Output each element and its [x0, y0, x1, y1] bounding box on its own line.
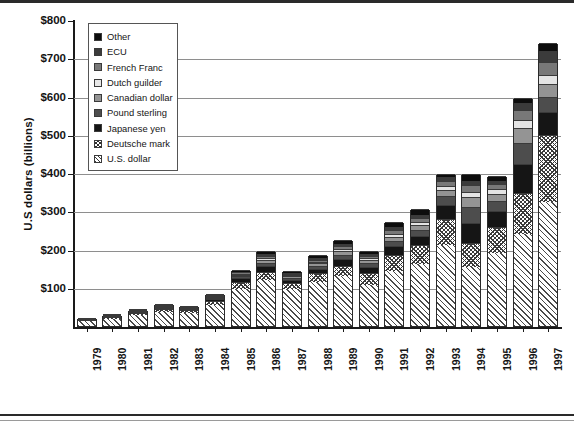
x-tick-1996 [523, 327, 524, 332]
page-bottom-rule-2 [0, 420, 574, 421]
x-axis-label-1988: 1988 [322, 348, 334, 371]
bar-segment-1997-japanese-yen [539, 112, 557, 135]
bar-segment-1989-pound-sterling [334, 255, 352, 259]
bar-segment-1991-deutsche-mark [385, 255, 403, 271]
legend-swatch-icon-pound-sterling [94, 109, 102, 117]
chart-legend: OtherECUFrench FrancDutch guilderCanadia… [88, 23, 178, 171]
bar-segment-1991-french-franc [385, 230, 403, 233]
bar-segment-1992-pound-sterling [411, 230, 429, 236]
bar-segment-1989-ecu [334, 244, 352, 246]
x-tick-1987 [292, 327, 293, 332]
bar-segment-1997-dutch-guilder [539, 75, 557, 83]
bar-segment-1996-japanese-yen [514, 164, 532, 193]
y-tick-500 [68, 136, 74, 137]
legend-item-ecu[interactable]: ECU [94, 44, 173, 59]
stacked-bar-1993 [436, 175, 456, 327]
y-tick-label-300: $300 [12, 205, 66, 217]
bar-segment-1997-ecu [539, 51, 557, 62]
legend-label: French Franc [107, 63, 163, 72]
y-tick-800 [68, 21, 74, 22]
x-axis-label-1982: 1982 [168, 348, 180, 371]
x-tick-1983 [189, 327, 190, 332]
bar-segment-1996-dutch-guilder [514, 120, 532, 128]
legend-label: Japanese yen [107, 124, 165, 133]
bar-segment-1994-canadian-dollar [462, 197, 480, 207]
y-tick-100 [68, 289, 74, 290]
legend-item-other[interactable]: Other [94, 29, 173, 44]
stacked-bar-1979 [77, 319, 97, 327]
bar-segment-1990-ecu [360, 254, 378, 256]
x-tick-1988 [318, 327, 319, 332]
legend-item-japanese-yen[interactable]: Japanese yen [94, 121, 173, 136]
stacked-bar-1991 [384, 223, 404, 327]
x-tick-1994 [471, 327, 472, 332]
bar-segment-1994-u-s-dollar [462, 267, 480, 326]
bar-segment-1987-french-franc [283, 274, 301, 275]
bar-segment-1988-japanese-yen [309, 269, 327, 274]
bar-segment-1992-dutch-guilder [411, 222, 429, 225]
x-tick-1997 [548, 327, 549, 332]
bar-segment-1979-u-s-dollar [78, 321, 96, 326]
legend-item-french-franc[interactable]: French Franc [94, 60, 173, 75]
y-tick-label-800: $800 [12, 14, 66, 26]
legend-label: Pound sterling [107, 108, 167, 117]
legend-swatch-icon-french-franc [94, 63, 102, 71]
bar-segment-1982-japanese-yen [155, 308, 173, 310]
bar-segment-1993-other [437, 174, 455, 177]
bar-segment-1992-canadian-dollar [411, 225, 429, 230]
y-tick-300 [68, 212, 74, 213]
x-axis-label-1979: 1979 [91, 348, 103, 371]
bar-segment-1995-other [488, 176, 506, 181]
bar-segment-1990-deutsche-mark [360, 273, 378, 284]
bar-segment-1995-ecu [488, 181, 506, 184]
bar-segment-1981-other [129, 309, 147, 310]
bar-segment-1990-french-franc [360, 256, 378, 258]
y-tick-label-600: $600 [12, 91, 66, 103]
bar-segment-1985-u-s-dollar [232, 289, 250, 326]
stacked-bar-1983 [179, 307, 199, 327]
legend-item-u-s-dollar[interactable]: U.S. dollar [94, 151, 173, 166]
legend-label: U.S. dollar [107, 154, 151, 163]
bar-segment-1987-u-s-dollar [283, 289, 301, 326]
x-axis-label-1986: 1986 [270, 348, 282, 371]
bar-segment-1979-canadian-dollar [78, 318, 96, 319]
legend-item-dutch-guilder[interactable]: Dutch guilder [94, 75, 173, 90]
y-tick-200 [68, 251, 74, 252]
legend-item-pound-sterling[interactable]: Pound sterling [94, 105, 173, 120]
x-axis-label-1993: 1993 [450, 348, 462, 371]
bar-segment-1997-french-franc [539, 62, 557, 75]
bar-segment-1987-canadian-dollar [283, 276, 301, 278]
bar-segment-1986-deutsche-mark [257, 272, 275, 280]
bar-segment-1986-ecu [257, 254, 275, 256]
bar-segment-1988-u-s-dollar [309, 282, 327, 326]
x-axis-label-1983: 1983 [193, 348, 205, 371]
bar-segment-1990-dutch-guilder [360, 258, 378, 260]
bar-segment-1984-u-s-dollar [206, 305, 224, 326]
x-axis-label-1997: 1997 [552, 348, 564, 371]
bar-segment-1981-u-s-dollar [129, 315, 147, 326]
bar-segment-1988-other [309, 255, 327, 258]
page-top-rule [0, 0, 574, 3]
x-axis-label-1985: 1985 [245, 348, 257, 371]
bar-segment-1983-u-s-dollar [180, 313, 198, 326]
bar-segment-1988-french-franc [309, 260, 327, 262]
legend-item-deutsche-mark[interactable]: Deutsche mark [94, 136, 173, 151]
x-tick-1982 [164, 327, 165, 332]
legend-item-canadian-dollar[interactable]: Canadian dollar [94, 90, 173, 105]
y-tick-label-700: $700 [12, 52, 66, 64]
bar-segment-1991-ecu [385, 227, 403, 230]
bar-segment-1996-ecu [514, 103, 532, 110]
bar-segment-1983-other [180, 306, 198, 307]
bar-segment-1985-french-franc [232, 272, 250, 273]
legend-swatch-icon-canadian-dollar [94, 94, 102, 102]
bar-segment-1986-other [257, 251, 275, 254]
x-axis-label-1996: 1996 [527, 348, 539, 371]
x-axis-label-1980: 1980 [116, 348, 128, 371]
y-tick-400 [68, 174, 74, 175]
bar-segment-1992-french-franc [411, 218, 429, 222]
bar-segment-1991-canadian-dollar [385, 237, 403, 241]
bar-segment-1995-canadian-dollar [488, 194, 506, 201]
bar-segment-1996-canadian-dollar [514, 128, 532, 143]
bar-segment-1987-japanese-yen [283, 280, 301, 283]
x-tick-1979 [87, 327, 88, 332]
